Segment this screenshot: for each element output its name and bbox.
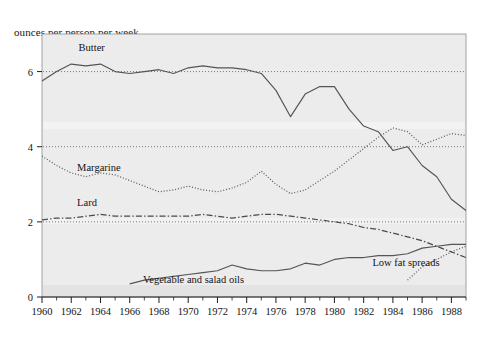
x-axis: 1960196219641966196819701972197419761978… <box>32 297 467 317</box>
x-tick-label-1980: 1980 <box>324 306 345 317</box>
line-chart-plot: 0246 19601962196419661968197019721974197… <box>0 0 493 339</box>
y-tick-label-2: 2 <box>28 217 33 228</box>
series-label-low-fat-spreads: Low fat spreads <box>372 257 439 268</box>
x-tick-label-1974: 1974 <box>236 306 258 317</box>
x-tick-label-1982: 1982 <box>353 306 374 317</box>
series-label-margarine: Margarine <box>77 162 121 173</box>
y-axis: 0246 <box>28 67 42 303</box>
x-tick-label-1986: 1986 <box>412 306 433 317</box>
x-tick-label-1970: 1970 <box>178 306 199 317</box>
x-tick-label-1976: 1976 <box>265 306 286 317</box>
y-tick-label-4: 4 <box>28 142 34 153</box>
x-tick-label-1968: 1968 <box>148 306 169 317</box>
x-tick-label-1964: 1964 <box>90 306 112 317</box>
x-tick-label-1960: 1960 <box>32 306 53 317</box>
plot-band-lower <box>43 285 465 296</box>
x-tick-label-1966: 1966 <box>119 306 140 317</box>
x-tick-label-1988: 1988 <box>441 306 462 317</box>
y-tick-label-0: 0 <box>28 292 33 303</box>
x-tick-label-1984: 1984 <box>382 306 404 317</box>
plot-band-upper <box>43 122 465 129</box>
x-tick-label-1978: 1978 <box>295 306 316 317</box>
series-label-vegetable-and-salad-oils: Vegetable and salad oils <box>143 274 244 285</box>
x-tick-label-1972: 1972 <box>207 306 228 317</box>
chart-container: ounces per person per week 0246 19601962… <box>0 0 493 339</box>
series-label-butter: Butter <box>79 42 106 53</box>
plot-band-mid <box>43 218 465 224</box>
y-tick-label-6: 6 <box>28 67 33 78</box>
series-label-lard: Lard <box>77 197 98 208</box>
x-tick-label-1962: 1962 <box>61 306 82 317</box>
